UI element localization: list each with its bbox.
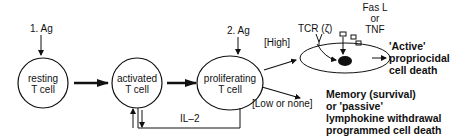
ag1-label: 1. Ag [30,23,53,34]
activated-cell-label: activated T cell [109,73,165,95]
resting-cell-label: resting T cell [18,73,68,95]
nucleus [338,56,352,66]
tcr-label: TCR (ζ) [298,23,332,34]
ligand-label: Fas L or TNF [360,2,390,35]
il2-label: IL–2 [180,113,199,124]
high-branch-arrow [264,60,296,70]
ligand-square-icon [340,32,346,36]
ligand-square-icon [351,35,356,39]
low-branch-arrow [262,87,300,98]
low-branch-label: [Low or none] [252,98,313,109]
ag2-label: 2. Ag [227,25,250,36]
passive-death-outcome: Memory (survival) or 'passive' lymphokin… [326,88,442,136]
active-death-outcome: 'Active' propriocidal cell death [389,40,450,76]
proliferating-cell-label: proliferating T cell [196,73,264,95]
high-branch-label: [High] [264,37,290,48]
